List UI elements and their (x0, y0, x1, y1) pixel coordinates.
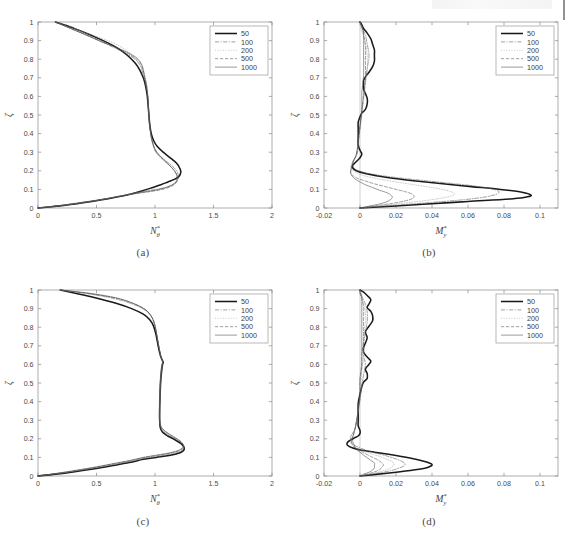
y-tick-label: 0.9 (24, 37, 34, 45)
y-axis-title: ζ (4, 112, 15, 117)
x-axis-title: Nθ* (149, 224, 160, 237)
y-tick-label: 0.6 (310, 93, 320, 101)
y-tick-label: 0.8 (310, 324, 320, 332)
x-axis-title-subscript: θ (156, 231, 160, 238)
y-tick-label: 1 (316, 19, 320, 27)
x-axis-title: My* (435, 224, 448, 237)
x-axis-title: Nθ* (149, 492, 160, 505)
y-tick-label: 0.5 (24, 380, 34, 388)
legend-label-1000: 1000 (241, 331, 257, 340)
legend-label-1000: 1000 (527, 331, 543, 340)
x-tick-label: 0.04 (425, 480, 439, 488)
x-tick-label: 0.02 (389, 212, 403, 220)
y-tick-label: 0 (30, 473, 34, 481)
y-tick-label: 0.2 (24, 435, 34, 443)
subplot-c: 00.511.5200.10.20.30.40.50.60.70.80.9150… (0, 268, 286, 537)
x-axis-title-superscript: * (443, 224, 447, 231)
x-tick-label: 2 (270, 480, 274, 488)
y-tick-label: 0.2 (310, 167, 320, 175)
subplot-a: 00.511.5200.10.20.30.40.50.60.70.80.9150… (0, 0, 286, 268)
subplot-b: -0.0200.020.040.060.080.100.10.20.30.40.… (286, 0, 572, 268)
y-tick-label: 0.5 (310, 112, 320, 120)
x-tick-label: 0.5 (92, 480, 102, 488)
x-tick-label: 2 (270, 212, 274, 220)
y-tick-label: 0.3 (24, 417, 34, 425)
y-tick-label: 0.4 (310, 130, 320, 138)
y-tick-label: 0.9 (24, 305, 34, 313)
y-tick-label: 0.8 (24, 324, 34, 332)
y-tick-label: 0.1 (24, 186, 34, 194)
y-tick-label: 0.4 (24, 398, 34, 406)
y-axis-title: ζ (4, 380, 15, 385)
caption-d: (d) (286, 515, 572, 527)
y-tick-label: 0 (316, 473, 320, 481)
y-tick-label: 0.8 (24, 56, 34, 64)
x-tick-label: 0 (36, 480, 40, 488)
y-tick-label: 0.8 (310, 56, 320, 64)
x-axis-title-superscript: * (157, 224, 161, 231)
y-tick-label: 0.9 (310, 37, 320, 45)
y-tick-label: 0.3 (310, 417, 320, 425)
y-tick-label: 0.9 (310, 305, 320, 313)
y-tick-label: 0.4 (24, 130, 34, 138)
x-tick-label: -0.02 (316, 212, 332, 220)
plot-area-a: 00.511.5200.10.20.30.40.50.60.70.80.9150… (0, 0, 286, 240)
x-tick-label: 0.04 (425, 212, 439, 220)
y-tick-label: 0 (30, 205, 34, 213)
x-tick-label: 0 (358, 480, 362, 488)
y-tick-label: 1 (30, 19, 34, 27)
caption-b: (b) (286, 246, 572, 258)
y-tick-label: 0.7 (310, 342, 320, 350)
y-tick-label: 0.6 (24, 93, 34, 101)
y-tick-label: 1 (30, 287, 34, 295)
y-tick-label: 0 (316, 205, 320, 213)
y-tick-label: 0.1 (310, 454, 320, 462)
y-tick-label: 0.2 (24, 167, 34, 175)
y-tick-label: 0.7 (24, 342, 34, 350)
x-tick-label: 0.1 (535, 212, 545, 220)
legend-label-1000: 1000 (241, 63, 257, 72)
y-axis-title: ζ (290, 112, 301, 117)
x-tick-label: 0.08 (497, 480, 511, 488)
plot-area-b: -0.0200.020.040.060.080.100.10.20.30.40.… (286, 0, 572, 240)
caption-a: (a) (0, 246, 286, 258)
x-axis-title-subscript: θ (156, 499, 160, 506)
y-tick-label: 0.1 (24, 454, 34, 462)
x-tick-label: 0.1 (535, 480, 545, 488)
y-tick-label: 0.6 (24, 361, 34, 369)
y-tick-label: 0.1 (310, 186, 320, 194)
x-tick-label: 0.02 (389, 480, 403, 488)
x-tick-label: 1.5 (209, 212, 219, 220)
x-tick-label: 0.08 (497, 212, 511, 220)
x-tick-label: 1 (153, 212, 157, 220)
y-tick-label: 0.3 (24, 149, 34, 157)
x-axis-title: My* (435, 492, 448, 505)
legend-label-1000: 1000 (527, 63, 543, 72)
x-tick-label: 0 (358, 212, 362, 220)
y-tick-label: 0.5 (310, 380, 320, 388)
x-axis-title-subscript: y (442, 499, 446, 506)
plot-area-c: 00.511.5200.10.20.30.40.50.60.70.80.9150… (0, 268, 286, 508)
y-tick-label: 0.4 (310, 398, 320, 406)
x-tick-label: 1.5 (209, 480, 219, 488)
subplot-d: -0.0200.020.040.060.080.100.10.20.30.40.… (286, 268, 572, 537)
y-tick-label: 0.6 (310, 361, 320, 369)
x-axis-title-superscript: * (157, 492, 161, 499)
y-tick-label: 0.7 (24, 74, 34, 82)
y-tick-label: 0.3 (310, 149, 320, 157)
x-tick-label: -0.02 (316, 480, 332, 488)
y-axis-title: ζ (290, 380, 301, 385)
x-axis-title-superscript: * (443, 492, 447, 499)
x-axis-title-subscript: y (442, 231, 446, 238)
caption-c: (c) (0, 515, 286, 527)
y-tick-label: 1 (316, 287, 320, 295)
y-tick-label: 0.5 (24, 112, 34, 120)
y-tick-label: 0.2 (310, 435, 320, 443)
x-tick-label: 0.06 (461, 212, 475, 220)
plot-area-d: -0.0200.020.040.060.080.100.10.20.30.40.… (286, 268, 572, 508)
y-tick-label: 0.7 (310, 74, 320, 82)
x-tick-label: 0.06 (461, 480, 475, 488)
x-tick-label: 0 (36, 212, 40, 220)
x-tick-label: 0.5 (92, 212, 102, 220)
x-tick-label: 1 (153, 480, 157, 488)
